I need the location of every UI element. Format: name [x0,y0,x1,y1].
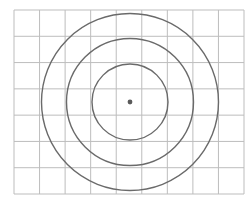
center-point [128,100,133,105]
concentric-circles-diagram [0,0,252,206]
